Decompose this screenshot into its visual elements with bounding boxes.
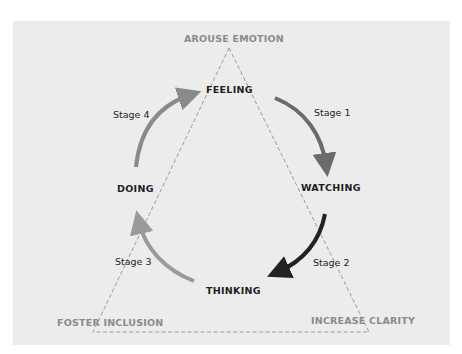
- corner-label-bottom-right: INCREASE CLARITY: [311, 315, 415, 326]
- cycle-diagram: [0, 0, 462, 354]
- node-watching: WATCHING: [301, 182, 361, 193]
- corner-label-top: AROUSE EMOTION: [184, 33, 284, 44]
- stage-3-arrow: [139, 222, 194, 281]
- node-doing: DOING: [117, 183, 154, 194]
- node-thinking: THINKING: [206, 285, 261, 296]
- stage-4-label: Stage 4: [113, 109, 150, 120]
- node-feeling: FEELING: [206, 84, 253, 95]
- stage-4-arrow: [136, 95, 190, 167]
- stage-1-label: Stage 1: [314, 107, 351, 118]
- stage-3-label: Stage 3: [115, 256, 152, 267]
- corner-label-bottom-left: FOSTER INCLUSION: [57, 317, 164, 328]
- stage-2-label: Stage 2: [313, 257, 350, 268]
